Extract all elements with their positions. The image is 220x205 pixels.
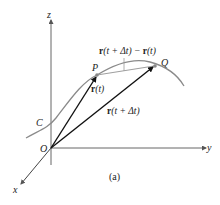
curve-c	[26, 61, 184, 138]
vector-r-t-dt-label: r(t + Δt)	[107, 106, 140, 117]
vector-r-t	[51, 77, 96, 148]
figure-caption: (a)	[109, 171, 120, 183]
point-q-marker	[153, 64, 157, 68]
difference-vector-label: r(t + Δt) − r(t)	[99, 46, 156, 57]
x-axis-label: x	[12, 184, 18, 195]
vector-r-t-label: r(t)	[91, 84, 104, 95]
vector-diagram: z y x O C P Q r(t) r(t + Δt) r(t + Δt) −…	[0, 0, 220, 205]
z-axis-label: z	[46, 9, 51, 20]
curve-label: C	[36, 117, 43, 128]
point-q-label: Q	[161, 57, 169, 68]
point-p-label: P	[91, 62, 98, 73]
y-axis-label: y	[206, 142, 212, 153]
point-p-marker	[95, 73, 99, 77]
axes	[21, 20, 206, 184]
origin-label: O	[40, 143, 47, 154]
